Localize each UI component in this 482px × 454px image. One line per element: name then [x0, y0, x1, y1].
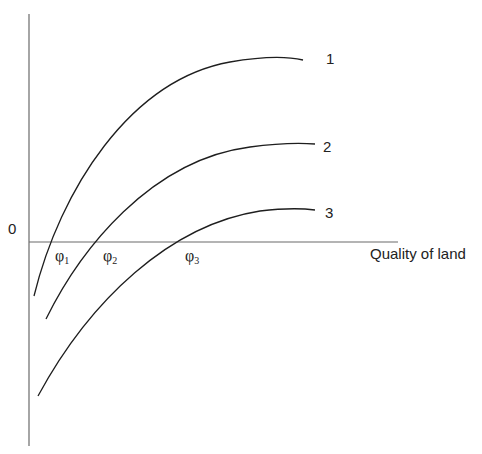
- svg-text:φ3: φ3: [185, 247, 199, 266]
- land-quality-diagram: 0 Quality of land 1 2 3 φ1 φ2 φ3: [0, 0, 482, 454]
- svg-text:φ1: φ1: [55, 247, 69, 266]
- phi-1-label: φ1: [55, 247, 69, 266]
- svg-text:φ2: φ2: [103, 247, 117, 266]
- phi-3-label: φ3: [185, 247, 199, 266]
- phi-2-label: φ2: [103, 247, 117, 266]
- origin-label: 0: [8, 220, 16, 237]
- curve-2: [46, 143, 315, 319]
- x-axis-label: Quality of land: [370, 245, 466, 262]
- curve-1-label: 1: [326, 50, 334, 67]
- curve-3: [38, 209, 315, 396]
- curve-2-label: 2: [323, 138, 331, 155]
- curve-3-label: 3: [325, 204, 333, 221]
